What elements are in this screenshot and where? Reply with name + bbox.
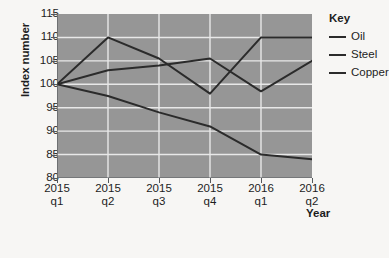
x-tick-label: 2016q2 [284,182,340,207]
x-tick-quarter: q2 [284,195,340,208]
legend-label: Steel [351,49,377,61]
x-tick-quarter: q3 [131,195,187,208]
x-tick-mark [57,178,58,183]
legend-entries: OilSteelCopper [329,29,387,80]
legend-label: Oil [351,31,365,43]
x-tick-year: 2015 [197,182,223,194]
x-tick-label: 2016q1 [233,182,289,207]
x-tick-mark [159,178,160,183]
legend-item-copper[interactable]: Copper [329,65,387,80]
legend-item-oil[interactable]: Oil [329,29,387,44]
plot-background [57,14,312,178]
plot-area [57,14,312,178]
legend-item-steel[interactable]: Steel [329,47,387,62]
legend-line-icon [329,72,346,74]
plot-svg [57,14,312,178]
x-tick-year: 2016 [299,182,325,194]
x-tick-label: 2015q2 [80,182,136,207]
legend-label: Copper [351,67,389,79]
x-tick-label: 2015q1 [29,182,85,207]
x-axis-title: Year [306,207,330,219]
x-tick-quarter: q4 [182,195,238,208]
x-tick-quarter: q1 [29,195,85,208]
x-tick-year: 2015 [44,182,70,194]
x-tick-label: 2015q3 [131,182,187,207]
legend: Key OilSteelCopper [329,12,387,83]
legend-title: Key [329,12,387,24]
x-tick-year: 2015 [95,182,121,194]
x-tick-quarter: q1 [233,195,289,208]
x-tick-mark [210,178,211,183]
x-tick-year: 2015 [146,182,172,194]
x-tick-mark [108,178,109,183]
x-tick-quarter: q2 [80,195,136,208]
legend-line-icon [329,36,346,38]
legend-line-icon [329,54,346,56]
x-tick-label: 2015q4 [182,182,238,207]
x-tick-mark [261,178,262,183]
x-tick-mark [312,178,313,183]
x-tick-year: 2016 [248,182,274,194]
